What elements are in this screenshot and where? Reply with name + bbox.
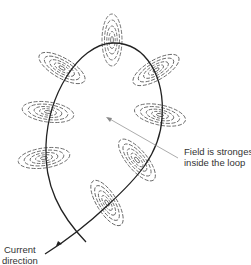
field-label-line2: inside the loop (184, 157, 245, 168)
current-label-line2: direction (2, 255, 38, 265)
loop-field-diagram (0, 0, 251, 265)
field-label-line1: Field is strongest (184, 146, 251, 157)
diagram-canvas: Field is strongest inside the loop Curre… (0, 0, 251, 265)
pointer-arrowhead (106, 117, 112, 122)
current-label-line1: Current (4, 244, 36, 255)
